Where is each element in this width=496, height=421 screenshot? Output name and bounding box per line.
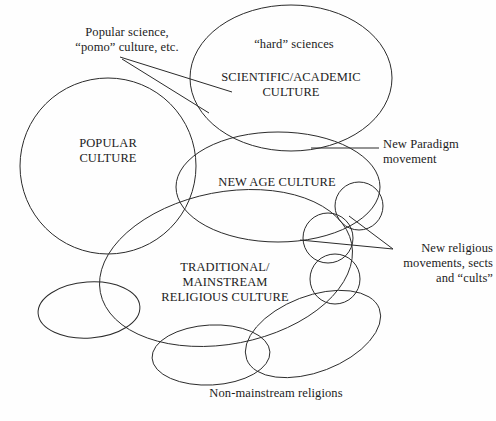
- annotation-hard-sciences: “hard” sciences: [224, 37, 364, 52]
- ellipse-bottom-centre-subculture: [151, 322, 272, 388]
- label-new-age-culture: NEW AGE CULTURE: [196, 175, 358, 190]
- annotation-new-religious-movements: New religious movements, sects and “cult…: [389, 241, 493, 285]
- label-scientific-academic-culture: SCIENTIFIC/ACADEMIC CULTURE: [191, 70, 391, 100]
- leader-line-nrm-upper: [349, 216, 393, 249]
- venn-canvas: [0, 0, 496, 421]
- venn-diagram: Popular science, “pomo” culture, etc. “h…: [0, 0, 496, 421]
- annotation-new-paradigm-movement: New Paradigm movement: [383, 137, 495, 167]
- circle-popular-culture: [20, 78, 196, 254]
- circle-nrm-lower: [310, 254, 360, 304]
- leader-line-nrm-lower: [300, 240, 393, 249]
- label-popular-culture: POPULAR CULTURE: [46, 136, 170, 166]
- circle-nrm-middle: [303, 213, 353, 263]
- annotation-popular-science: Popular science, “pomo” culture, etc.: [52, 25, 202, 55]
- ellipse-lower-left-subculture: [36, 279, 142, 342]
- label-traditional-religious-culture: TRADITIONAL/ MAINSTREAM RELIGIOUS CULTUR…: [141, 260, 309, 304]
- annotation-non-mainstream-religions: Non-mainstream religions: [178, 386, 374, 401]
